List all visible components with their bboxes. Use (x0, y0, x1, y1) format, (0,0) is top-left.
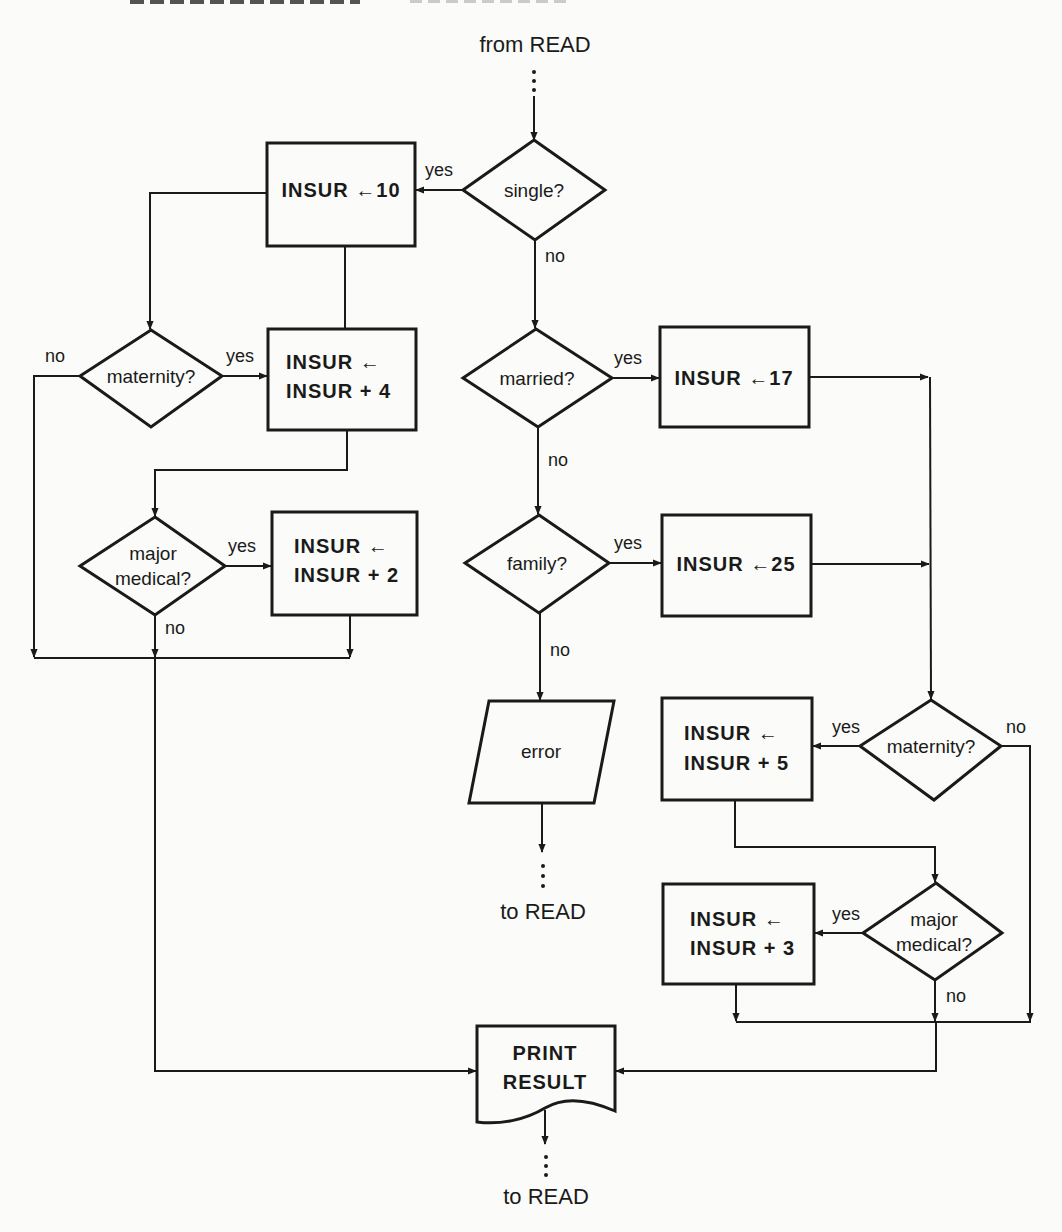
edge-bus-to-maternity-right (930, 377, 931, 699)
edge-insur5-to-major-medical-right (735, 800, 935, 882)
process-insur-plus-4: INSUR ← INSUR + 4 (268, 329, 416, 430)
start-terminal-label: from READ (479, 32, 590, 57)
decision-single: single? (463, 140, 605, 240)
document-print-result-line1: PRINT (513, 1042, 578, 1064)
process-insur-17: INSUR ←17 (660, 327, 809, 427)
edge-label-family-no: no (550, 640, 570, 660)
edge-label-major-medical-left-yes: yes (228, 536, 256, 556)
process-insur-plus-2-line1: INSUR ← (294, 535, 389, 557)
process-insur-plus-5-line1: INSUR ← (684, 722, 779, 744)
edge-maternity-left-no (34, 376, 80, 657)
edge-label-single-yes: yes (425, 160, 453, 180)
process-insur-plus-3: INSUR ← INSUR + 3 (663, 884, 814, 984)
edge-right-to-print (616, 1022, 936, 1071)
edge-label-married-no: no (548, 450, 568, 470)
process-insur-25-label: INSUR ←25 (676, 553, 795, 575)
decision-married-label: married? (500, 368, 575, 389)
error-dotted-connector (541, 864, 545, 888)
decision-major-medical-left: major medical? (80, 517, 225, 615)
decision-married: married? (463, 329, 612, 427)
edge-label-family-yes: yes (614, 533, 642, 553)
decision-single-label: single? (504, 180, 564, 201)
flowchart-canvas: from READ single? yes no INSUR ←10 mater… (0, 0, 1062, 1232)
edge-label-single-no: no (545, 246, 565, 266)
document-print-result: PRINT RESULT (477, 1026, 615, 1123)
process-insur-10: INSUR ←10 (267, 143, 415, 246)
decision-family-label: family? (507, 553, 567, 574)
edge-label-maternity-left-yes: yes (226, 346, 254, 366)
process-insur-10-label: INSUR ←10 (281, 179, 400, 201)
end-dotted-connector (544, 1155, 548, 1177)
process-insur-17-label: INSUR ←17 (674, 367, 793, 389)
io-error: error (469, 701, 614, 803)
edge-label-major-medical-left-no: no (165, 618, 185, 638)
edge-label-major-medical-right-yes: yes (832, 904, 860, 924)
edge-maternity-right-no (1001, 746, 1030, 1021)
decision-maternity-right: maternity? (860, 700, 1001, 800)
decision-maternity-left-label: maternity? (107, 366, 196, 387)
document-print-result-line2: RESULT (503, 1071, 588, 1093)
decision-maternity-left: maternity? (80, 330, 222, 427)
process-insur-plus-2-line2: INSUR + 2 (294, 564, 399, 586)
edge-label-maternity-right-no: no (1006, 717, 1026, 737)
edge-label-major-medical-right-no: no (946, 986, 966, 1006)
decision-major-medical-right: major medical? (863, 883, 1002, 980)
edge-insur10-to-maternity-left (150, 193, 267, 329)
process-insur-plus-2: INSUR ← INSUR + 2 (272, 512, 417, 615)
decision-major-medical-right-line2: medical? (896, 934, 972, 955)
decision-maternity-right-label: maternity? (887, 736, 976, 757)
process-insur-25: INSUR ←25 (662, 515, 811, 616)
process-insur-plus-4-line1: INSUR ← (286, 351, 381, 373)
decision-major-medical-left-line1: major (129, 543, 177, 564)
process-insur-plus-5: INSUR ← INSUR + 5 (662, 698, 812, 800)
process-insur-plus-4-line2: INSUR + 4 (286, 380, 391, 402)
io-error-label: error (521, 741, 562, 762)
edge-left-to-print (155, 658, 476, 1071)
decision-family: family? (465, 515, 609, 613)
process-insur-plus-5-line2: INSUR + 5 (684, 752, 789, 774)
decision-major-medical-left-line2: medical? (115, 568, 191, 589)
process-insur-plus-3-line2: INSUR + 3 (690, 937, 795, 959)
edge-label-married-yes: yes (614, 348, 642, 368)
edge-label-maternity-left-no: no (45, 346, 65, 366)
edge-label-maternity-right-yes: yes (832, 717, 860, 737)
edge-insur4-to-major-medical-left (155, 430, 347, 516)
process-insur-plus-3-line1: INSUR ← (690, 908, 785, 930)
error-exit-terminal-label: to READ (500, 899, 586, 924)
end-terminal-label: to READ (503, 1184, 589, 1209)
decision-major-medical-right-line1: major (910, 909, 958, 930)
start-dotted-connector (532, 70, 536, 92)
